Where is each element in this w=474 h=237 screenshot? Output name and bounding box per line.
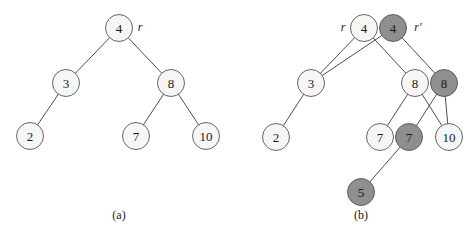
node-label: 7	[406, 130, 413, 145]
tree-node-b3: 3	[298, 70, 325, 97]
tree-node-b8-new: 8	[431, 70, 458, 97]
root-pointer-r-old: r	[341, 20, 346, 34]
tree-node-b2: 2	[263, 124, 290, 151]
tree-node-a4: 4	[106, 15, 133, 42]
caption-b: (b)	[354, 208, 368, 222]
node-label: 10	[443, 130, 456, 145]
tree-node-a8: 8	[158, 70, 185, 97]
node-label: 2	[27, 129, 34, 144]
panel-b-edges	[276, 28, 449, 192]
tree-node-b4-new: 4	[380, 15, 407, 42]
tree-node-b4: 4	[351, 15, 378, 42]
node-label: 4	[116, 21, 123, 36]
node-label: 3	[308, 76, 315, 91]
tree-node-a3: 3	[53, 70, 80, 97]
node-label: 7	[377, 130, 384, 145]
node-label: 4	[361, 21, 368, 36]
tree-node-b8: 8	[402, 70, 429, 97]
tree-node-b5-new: 5	[348, 179, 375, 206]
caption-a: (a)	[112, 208, 125, 222]
root-pointer-r: r	[138, 20, 143, 34]
tree-node-b10: 10	[436, 124, 463, 151]
tree-node-a10: 10	[193, 123, 220, 150]
node-label: 10	[200, 129, 213, 144]
tree-node-a7: 7	[123, 123, 150, 150]
node-label: 3	[63, 76, 70, 91]
tree-node-a2: 2	[17, 123, 44, 150]
tree-node-b7: 7	[367, 124, 394, 151]
node-label: 7	[133, 129, 140, 144]
persistent-bst-diagram: 4 3 8 2 7 10 r 4 4	[0, 0, 474, 237]
node-label: 8	[412, 76, 419, 91]
root-pointer-r-prime: r′	[414, 20, 422, 34]
node-label: 8	[168, 76, 175, 91]
node-label: 5	[358, 185, 365, 200]
node-label: 4	[390, 21, 397, 36]
tree-node-b7-new: 7	[396, 124, 423, 151]
panel-a-nodes: 4 3 8 2 7 10 r	[17, 15, 220, 150]
edge-b4n-b3	[311, 28, 393, 83]
node-label: 8	[441, 76, 448, 91]
node-label: 2	[273, 130, 280, 145]
